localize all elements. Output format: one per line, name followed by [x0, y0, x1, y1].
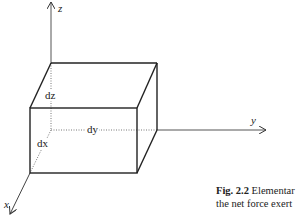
y-axis-label: y — [251, 115, 256, 126]
caption-text-1: Elementar — [252, 185, 295, 196]
dz-label: dz — [44, 90, 56, 101]
caption-line-1: Fig. 2.2 Elementar — [216, 184, 295, 197]
dy-label: dy — [86, 124, 99, 135]
caption-line-2: the net force exert — [216, 197, 295, 210]
x-axis — [10, 173, 30, 214]
x-axis-label: x — [4, 199, 9, 210]
z-axis-label: z — [58, 3, 62, 14]
figure-caption: Fig. 2.2 Elementar the net force exert — [216, 184, 295, 210]
dx-label: dx — [36, 138, 49, 149]
box-edges — [30, 63, 157, 173]
caption-figure-number: Fig. 2.2 — [216, 185, 249, 196]
